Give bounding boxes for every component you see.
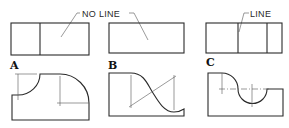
panel-c-label: C <box>206 56 215 69</box>
panel-a-label: A <box>9 59 19 72</box>
panel-b-label: B <box>108 59 117 72</box>
line-callout: LINE <box>250 9 271 19</box>
no-line-leader-a <box>61 13 80 37</box>
panel-b-front-view <box>109 73 184 116</box>
panel-c-front-view <box>208 73 283 116</box>
panel-a-front-view <box>12 74 89 120</box>
no-line-leader-b <box>129 13 148 40</box>
no-line-callout: NO LINE <box>82 9 120 19</box>
panel-a-top-view <box>11 23 89 55</box>
panel-b-top-view <box>109 23 184 53</box>
panel-c-top-view <box>206 23 282 53</box>
tangency-diagram: NO LINE LINE A B C <box>0 0 289 128</box>
